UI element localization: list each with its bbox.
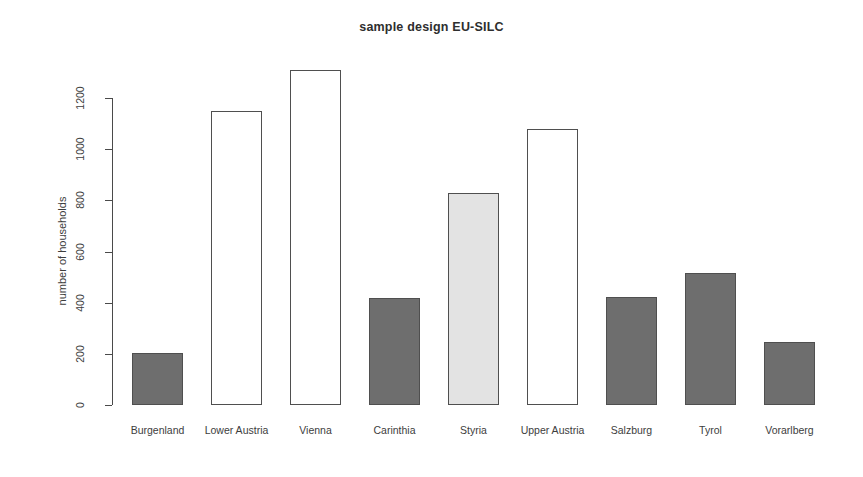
y-tick-200 — [105, 354, 112, 355]
x-label-salzburg: Salzburg — [592, 424, 671, 436]
x-label-vienna: Vienna — [276, 424, 355, 436]
x-label-upper-austria: Upper Austria — [513, 424, 592, 436]
y-tick-1000 — [105, 149, 112, 150]
x-label-lower-austria: Lower Austria — [197, 424, 276, 436]
bar-burgenland[interactable] — [132, 353, 183, 405]
bar-lower-austria[interactable] — [211, 111, 262, 405]
plot-area — [112, 40, 852, 405]
y-tick-label-wrap: 200 — [58, 347, 102, 361]
y-tick-600 — [105, 252, 112, 253]
y-tick-label: 800 — [73, 178, 87, 222]
y-tick-label-wrap: 1200 — [58, 91, 102, 105]
bar-vorarlberg[interactable] — [764, 342, 815, 405]
chart-title: sample design EU-SILC — [0, 20, 863, 34]
y-tick-label-wrap: 0 — [58, 398, 102, 412]
y-tick-label: 1200 — [73, 76, 87, 120]
y-tick-label: 0 — [73, 383, 87, 427]
y-tick-1200 — [105, 98, 112, 99]
bar-chart: sample design EU-SILC number of househol… — [0, 0, 863, 477]
y-tick-label: 600 — [73, 230, 87, 274]
bar-salzburg[interactable] — [606, 297, 657, 405]
x-label-vorarlberg: Vorarlberg — [750, 424, 829, 436]
x-label-carinthia: Carinthia — [355, 424, 434, 436]
x-label-burgenland: Burgenland — [118, 424, 197, 436]
y-tick-400 — [105, 303, 112, 304]
bar-styria[interactable] — [448, 193, 499, 405]
bar-vienna[interactable] — [290, 70, 341, 405]
y-tick-label-wrap: 1000 — [58, 142, 102, 156]
bar-carinthia[interactable] — [369, 298, 420, 405]
bar-tyrol[interactable] — [685, 273, 736, 405]
y-tick-label-wrap: 800 — [58, 193, 102, 207]
y-tick-label: 400 — [73, 281, 87, 325]
y-tick-label-wrap: 600 — [58, 245, 102, 259]
bar-upper-austria[interactable] — [527, 129, 578, 405]
x-label-tyrol: Tyrol — [671, 424, 750, 436]
y-tick-label-wrap: 400 — [58, 296, 102, 310]
x-label-styria: Styria — [434, 424, 513, 436]
y-tick-label: 1000 — [73, 127, 87, 171]
y-tick-label: 200 — [73, 332, 87, 376]
y-tick-800 — [105, 200, 112, 201]
y-tick-0 — [105, 405, 112, 406]
